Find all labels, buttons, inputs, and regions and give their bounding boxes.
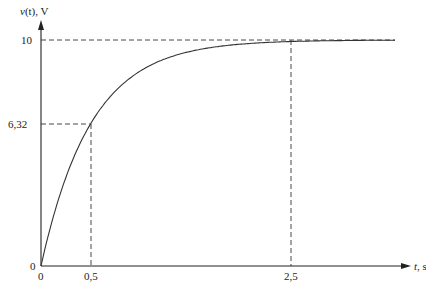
- x-tick-25: 2,5: [284, 270, 298, 282]
- y-tick-0: 0: [30, 260, 36, 272]
- x-axis-label: t, s: [414, 260, 426, 272]
- x-tick-05: 0,5: [84, 270, 98, 282]
- axes: [38, 20, 411, 269]
- step-response-chart: v(t), V 10 6,32 0 0 0,5 2,5 t, s: [0, 0, 426, 293]
- x-axis-arrow-icon: [401, 263, 411, 269]
- dashed-guides: [41, 40, 395, 266]
- y-tick-632: 6,32: [8, 118, 27, 130]
- y-tick-10: 10: [21, 34, 33, 46]
- x-tick-0: 0: [38, 270, 44, 282]
- y-axis-label: v(t), V: [20, 5, 49, 18]
- y-axis-arrow-icon: [38, 20, 44, 30]
- response-curve: [41, 40, 395, 266]
